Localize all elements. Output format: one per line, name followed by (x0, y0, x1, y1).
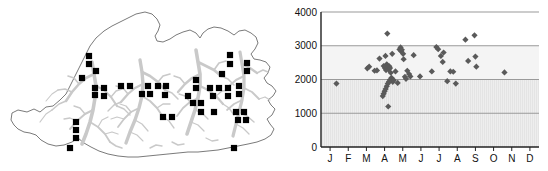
x-axis-tick-label: O (490, 153, 498, 164)
record-marker (198, 100, 204, 106)
record-marker (147, 91, 153, 97)
x-axis-tick-label: J (418, 153, 423, 164)
band-2000-3000 (321, 46, 539, 80)
record-marker (163, 83, 169, 89)
record-marker (101, 93, 107, 99)
record-marker (169, 114, 175, 120)
record-marker (193, 85, 199, 91)
record-marker (162, 92, 168, 98)
record-marker (225, 85, 231, 91)
y-axis-ticklabels: 01000200030004000 (295, 7, 318, 153)
x-axis-ticklabels: JFMAMJJASOND (328, 153, 534, 164)
y-axis-tick-label: 2000 (295, 74, 318, 85)
record-marker (93, 68, 99, 74)
record-marker (73, 135, 79, 141)
record-marker (236, 91, 242, 97)
record-marker (207, 85, 213, 91)
x-axis-tick-label: M (362, 153, 370, 164)
altitude-scatter-chart: 01000200030004000 JFMAMJJASOND (288, 0, 548, 171)
figure-container: 01000200030004000 JFMAMJJASOND (0, 0, 548, 171)
record-marker (160, 114, 166, 120)
x-axis-tick-label: A (454, 153, 461, 164)
record-marker (193, 77, 199, 83)
y-axis-tick-label: 1000 (295, 108, 318, 119)
record-marker (155, 83, 161, 89)
record-marker (185, 93, 191, 99)
record-marker (139, 91, 145, 97)
record-marker (244, 68, 250, 74)
record-marker (73, 127, 79, 133)
x-axis-tick-label: F (345, 153, 351, 164)
x-axis-tick-label: A (381, 153, 388, 164)
record-marker (86, 53, 92, 59)
record-marker (79, 75, 85, 81)
record-marker (227, 52, 233, 58)
y-axis-tick-label: 0 (311, 142, 317, 153)
record-marker (118, 83, 124, 89)
x-axis-tick-label: J (328, 153, 333, 164)
record-marker (241, 109, 247, 115)
distribution-map (0, 0, 288, 171)
record-marker (198, 109, 204, 115)
x-axis-tick-label: M (399, 153, 407, 164)
x-axis-tick-label: S (472, 153, 479, 164)
record-marker (243, 117, 249, 123)
record-marker (190, 100, 196, 106)
record-marker (235, 117, 241, 123)
record-marker (92, 92, 98, 98)
x-axis-tick-label: D (526, 153, 533, 164)
record-marker (225, 93, 231, 99)
record-marker (67, 145, 73, 151)
record-marker (231, 145, 237, 151)
record-marker (219, 71, 225, 77)
record-marker (244, 60, 250, 66)
x-axis-tick-label: N (508, 153, 515, 164)
record-marker (145, 83, 151, 89)
record-marker (227, 61, 233, 67)
y-axis-tick-label: 3000 (295, 40, 318, 51)
record-marker (233, 109, 239, 115)
record-marker (236, 83, 242, 89)
record-marker (92, 85, 98, 91)
record-marker (210, 93, 216, 99)
record-marker (127, 83, 133, 89)
record-marker (216, 85, 222, 91)
record-marker (73, 119, 79, 125)
x-axis-tick-label: J (437, 153, 442, 164)
record-marker (211, 109, 217, 115)
record-marker (101, 85, 107, 91)
y-axis-tick-label: 4000 (295, 7, 318, 18)
scatter-chart-panel: 01000200030004000 JFMAMJJASOND (288, 0, 548, 171)
distribution-map-panel (0, 0, 288, 171)
record-marker (86, 61, 92, 67)
